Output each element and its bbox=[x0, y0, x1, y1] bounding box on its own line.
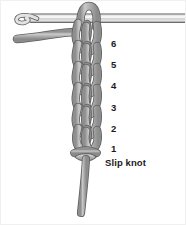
crochet-chain-diagram: 6 5 4 3 2 1 Slip knot bbox=[0, 0, 186, 225]
stitch-label-5: 5 bbox=[111, 60, 116, 70]
stitch-label-group: 6 5 4 3 2 1 Slip knot bbox=[1, 1, 186, 225]
stitch-label-4: 4 bbox=[111, 81, 116, 91]
slip-knot-label: Slip knot bbox=[105, 158, 146, 168]
stitch-label-6: 6 bbox=[111, 39, 116, 49]
stitch-label-1: 1 bbox=[111, 144, 116, 154]
stitch-label-2: 2 bbox=[111, 124, 116, 134]
stitch-label-3: 3 bbox=[111, 103, 116, 113]
